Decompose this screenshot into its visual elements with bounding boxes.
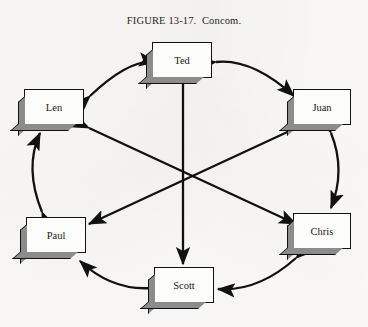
- node-paul[interactable]: Paul: [26, 217, 86, 253]
- edge-ted-juan: [216, 62, 294, 96]
- node-chris[interactable]: Chris: [293, 213, 351, 249]
- node-label-len: Len: [46, 102, 62, 113]
- node-label-scott: Scott: [173, 280, 195, 291]
- node-label-paul: Paul: [47, 230, 66, 241]
- node-scott[interactable]: Scott: [154, 267, 214, 303]
- node-label-ted: Ted: [174, 55, 190, 66]
- edge-chris-scott: [218, 258, 296, 289]
- node-label-chris: Chris: [311, 226, 334, 237]
- edge-juan-chris: [331, 133, 339, 208]
- edge-scott-paul: [80, 261, 152, 288]
- node-len[interactable]: Len: [24, 89, 84, 125]
- node-juan[interactable]: Juan: [293, 89, 351, 125]
- edge-paul-len: [32, 133, 42, 212]
- node-ted[interactable]: Ted: [152, 42, 212, 78]
- node-label-juan: Juan: [312, 102, 331, 113]
- figure-page: FIGURE 13-17. Concom. Ted Juan: [0, 0, 368, 327]
